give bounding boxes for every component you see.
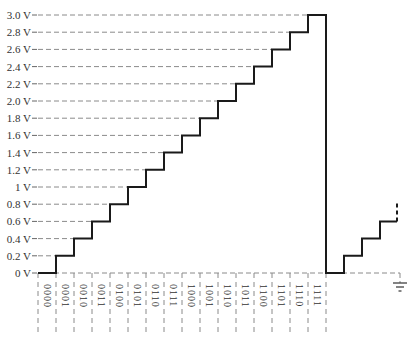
y-tick-label: 1.2 V (7, 164, 31, 176)
binary-code-label: 0001 (60, 284, 71, 308)
y-axis-labels: 0 V0.2 V0.4 V0.6 V0.8 V1 V1.2 V1.4 V1.6 … (7, 9, 37, 279)
y-tick-label: 0.6 V (7, 215, 31, 227)
staircase-line (38, 15, 397, 273)
y-tick-label: 1.6 V (7, 129, 31, 141)
binary-code-label: 0000 (42, 284, 53, 308)
staircase-waveform (38, 15, 397, 273)
binary-code-label: 0010 (78, 284, 89, 308)
y-tick-label: 1.8 V (7, 112, 31, 124)
binary-code-label: 0111 (168, 284, 179, 307)
y-tick-label: 2.8 V (7, 26, 31, 38)
y-tick-label: 2.2 V (7, 78, 31, 90)
binary-code-label: 0101 (132, 284, 143, 308)
binary-code-label: 1011 (240, 284, 251, 308)
binary-code-label: 0100 (114, 284, 125, 308)
y-tick-label: 2.6 V (7, 43, 31, 55)
y-tick-label: 1 V (15, 181, 31, 193)
binary-code-label: 1001 (204, 284, 215, 308)
y-tick-label: 0 V (15, 267, 31, 279)
y-tick-label: 2.4 V (7, 61, 31, 73)
binary-code-label: 1101 (276, 284, 287, 308)
binary-code-label: 0011 (96, 284, 107, 308)
binary-code-label: 1000 (186, 284, 197, 308)
binary-code-label: 1100 (258, 284, 269, 308)
binary-code-label: 1010 (222, 284, 233, 308)
y-tick-label: 0.4 V (7, 233, 31, 245)
binary-code-label: 1110 (294, 284, 305, 307)
y-tick-label: 2.0 V (7, 95, 31, 107)
y-tick-label: 3.0 V (7, 9, 31, 21)
y-tick-label: 0.8 V (7, 198, 31, 210)
ground-icon (393, 273, 407, 291)
y-tick-label: 0.2 V (7, 250, 31, 262)
binary-code-label: 1111 (312, 284, 323, 307)
dac-staircase-diagram: 0 V0.2 V0.4 V0.6 V0.8 V1 V1.2 V1.4 V1.6 … (0, 0, 417, 349)
y-tick-label: 1.4 V (7, 147, 31, 159)
binary-code-label: 0110 (150, 284, 161, 308)
